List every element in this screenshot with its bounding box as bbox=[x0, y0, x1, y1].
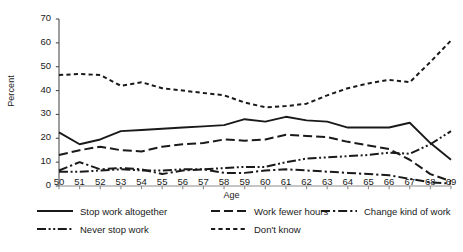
plot-svg bbox=[0, 0, 463, 200]
series-line-1 bbox=[59, 135, 451, 182]
legend-swatch-icon bbox=[320, 205, 358, 217]
plot-area: Percent 010203040506070 5051525354555657… bbox=[0, 0, 463, 200]
legend-item-2: Change kind of work bbox=[320, 203, 451, 219]
legend-label: Don't know bbox=[248, 224, 301, 235]
legend-label: Change kind of work bbox=[358, 206, 451, 217]
legend-row: Never stop workDon't know bbox=[0, 221, 463, 237]
legend-item-1: Work fewer hours bbox=[210, 203, 328, 219]
legend-swatch-icon bbox=[36, 223, 74, 235]
series-line-4 bbox=[59, 40, 451, 107]
x-axis-label: Age bbox=[0, 190, 463, 200]
series-line-2 bbox=[59, 162, 451, 183]
legend-row: Stop work altogetherWork fewer hoursChan… bbox=[0, 203, 463, 219]
legend-swatch-icon bbox=[36, 205, 74, 217]
legend-swatch-icon bbox=[210, 223, 248, 235]
legend-item-3: Never stop work bbox=[36, 221, 149, 237]
legend-label: Never stop work bbox=[74, 224, 149, 235]
legend-item-4: Don't know bbox=[210, 221, 301, 237]
legend-item-0: Stop work altogether bbox=[36, 203, 167, 219]
line-chart: Percent 010203040506070 5051525354555657… bbox=[0, 0, 463, 252]
legend-label: Work fewer hours bbox=[248, 206, 328, 217]
legend-label: Stop work altogether bbox=[74, 206, 167, 217]
legend-swatch-icon bbox=[210, 205, 248, 217]
chart-legend: Stop work altogetherWork fewer hoursChan… bbox=[0, 203, 463, 252]
